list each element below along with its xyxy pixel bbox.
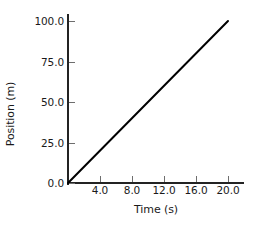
data-series-line [0,0,255,228]
x-axis-title: Time (s) [68,203,244,216]
y-axis-title: Position (m) [3,0,19,228]
chart-figure: 0.0 25.0 50.0 75.0 100.0 4.0 8.0 12.0 16… [0,0,255,228]
